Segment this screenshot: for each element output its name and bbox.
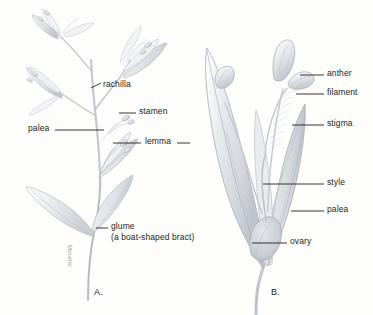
botanical-figure: rachilla stamen palea lemma glume (a boa…	[0, 0, 373, 315]
label-stamen: stamen	[139, 106, 167, 117]
label-glume: glume	[111, 221, 135, 232]
panel-a-drawing	[26, 9, 167, 300]
label-style: style	[327, 177, 345, 188]
panel-letter-b: B.	[271, 287, 280, 297]
panel-letter-a: A.	[94, 287, 103, 297]
label-glume-note: (a boat-shaped bract)	[111, 232, 194, 243]
label-rachilla: rachilla	[103, 79, 131, 90]
label-anther: anther	[327, 68, 352, 79]
label-lemma: lemma	[145, 136, 171, 147]
illustration-canvas	[0, 0, 373, 315]
label-stigma: stigma	[327, 118, 353, 129]
panel-b-drawing	[206, 40, 315, 314]
label-palea-a: palea	[28, 123, 49, 134]
label-palea-b: palea	[327, 204, 348, 215]
label-filament: filament	[327, 87, 358, 98]
label-ovary: ovary	[290, 236, 311, 247]
artist-signature: Morello	[67, 245, 73, 267]
